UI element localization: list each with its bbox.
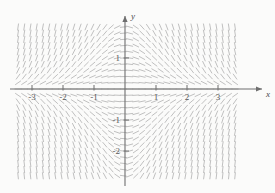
- field-segment: [191, 160, 192, 167]
- field-segment: [184, 141, 186, 148]
- field-segment: [42, 117, 44, 124]
- field-segment: [102, 37, 107, 42]
- field-segment: [90, 55, 95, 60]
- field-segment: [178, 135, 180, 142]
- field-segment: [202, 67, 206, 73]
- field-segment: [109, 173, 113, 178]
- field-segment: [222, 141, 223, 148]
- field-segment: [201, 81, 207, 84]
- field-segment: [196, 111, 199, 117]
- field-segment: [40, 81, 46, 84]
- field-segment: [195, 99, 200, 104]
- field-segment: [22, 99, 26, 105]
- field-segment: [191, 148, 193, 155]
- field-segment: [67, 154, 69, 161]
- field-segment: [67, 36, 69, 43]
- field-segment: [108, 37, 114, 41]
- field-segment: [139, 95, 146, 96]
- field-segment: [227, 99, 231, 105]
- field-segment: [47, 61, 50, 67]
- field-segment: [72, 49, 75, 55]
- field-segment: [36, 154, 37, 161]
- field-segment: [177, 68, 182, 73]
- field-segment: [133, 173, 138, 178]
- field-segment: [42, 36, 44, 43]
- field-segment: [213, 81, 219, 85]
- field-segment: [71, 99, 77, 103]
- field-segment: [36, 36, 38, 43]
- field-segment: [36, 123, 38, 130]
- field-segment: [184, 135, 186, 142]
- field-segment: [108, 63, 115, 65]
- field-segment: [153, 148, 156, 154]
- field-segment: [96, 112, 102, 116]
- field-segment: [139, 69, 146, 71]
- field-segment: [165, 117, 169, 123]
- field-segment: [228, 135, 229, 142]
- field-segment: [17, 42, 18, 49]
- field-segment: [89, 69, 95, 73]
- field-segment: [97, 173, 100, 179]
- field-segment: [61, 141, 63, 148]
- field-segment: [153, 173, 155, 180]
- field-segment: [91, 148, 94, 154]
- field-segment: [203, 30, 205, 37]
- field-segment: [126, 126, 133, 127]
- field-segment: [120, 169, 127, 170]
- field-segment: [40, 74, 45, 79]
- field-segment: [207, 81, 213, 84]
- field-segment: [222, 42, 224, 49]
- field-segment: [67, 160, 69, 167]
- field-segment: [215, 111, 218, 117]
- field-segment: [152, 43, 156, 49]
- field-segment: [209, 135, 211, 142]
- field-segment: [85, 142, 88, 148]
- field-segment: [133, 137, 139, 140]
- field-segment: [24, 141, 25, 148]
- field-segment: [210, 166, 211, 173]
- field-segment: [78, 62, 83, 67]
- field-segment: [30, 154, 31, 161]
- field-segment: [145, 56, 151, 60]
- field-segment: [71, 75, 77, 79]
- field-segment: [202, 99, 207, 104]
- field-segment: [191, 24, 193, 31]
- field-segment: [184, 30, 186, 37]
- field-segment: [17, 135, 18, 142]
- field-segment: [103, 154, 107, 160]
- field-segment: [203, 111, 206, 117]
- field-segment: [146, 142, 150, 148]
- field-segment: [139, 37, 144, 42]
- field-segment: [221, 61, 224, 67]
- field-segment: [145, 118, 151, 122]
- field-segment: [203, 123, 205, 130]
- field-segment: [140, 24, 145, 29]
- field-segment: [108, 57, 114, 60]
- field-segment: [153, 166, 156, 172]
- field-segment: [30, 148, 31, 155]
- field-segment: [96, 130, 101, 135]
- field-segment: [183, 105, 188, 110]
- field-segment: [85, 36, 88, 42]
- field-segment: [91, 172, 93, 179]
- field-segment: [71, 82, 78, 84]
- field-segment: [54, 36, 56, 43]
- field-segment: [201, 94, 207, 97]
- field-segment: [48, 36, 50, 43]
- field-segment: [67, 141, 69, 148]
- field-segment: [208, 99, 213, 104]
- field-segment: [146, 30, 150, 36]
- field-segment: [170, 82, 177, 84]
- field-segment: [160, 166, 162, 173]
- field-segment: [235, 154, 236, 161]
- field-segment: [48, 154, 49, 161]
- field-segment: [203, 117, 206, 124]
- field-segment: [232, 81, 238, 85]
- field-segment: [18, 148, 19, 155]
- field-segment: [172, 42, 175, 48]
- field-segment: [203, 36, 205, 43]
- field-segment: [85, 129, 88, 135]
- field-segment: [220, 81, 226, 85]
- field-segment: [203, 48, 205, 55]
- field-segment: [172, 135, 175, 142]
